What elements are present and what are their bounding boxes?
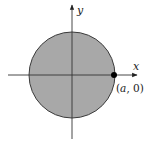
point-label: (a, 0) (116, 82, 144, 94)
y-axis-label: y (76, 4, 84, 17)
diagram-canvas: y x (a, 0) (0, 0, 147, 141)
point-a-0 (111, 72, 117, 78)
x-axis-label: x (133, 60, 140, 73)
